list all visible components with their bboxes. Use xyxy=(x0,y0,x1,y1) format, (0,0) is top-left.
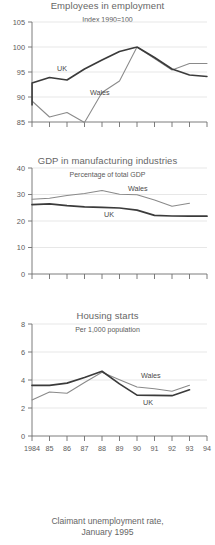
ytick-label-8: 8 xyxy=(21,320,25,329)
xtick-label-94: 94 xyxy=(203,444,211,453)
ytick-label-20: 20 xyxy=(17,217,25,226)
ytick-label-30: 30 xyxy=(17,190,25,199)
figure-panel-stack: Employees in employment Index 1990=100 1… xyxy=(0,0,215,545)
series-label-uk: UK xyxy=(104,210,114,219)
ytick-label-85: 85 xyxy=(17,118,25,127)
series-label-wales: Wales xyxy=(90,88,110,97)
xtick-label-86: 86 xyxy=(63,444,71,453)
ytick-label-10: 10 xyxy=(17,243,25,252)
ytick-label-4: 4 xyxy=(21,376,25,385)
footer-caption-line-2: January 1995 xyxy=(0,527,215,538)
ytick-label-100: 100 xyxy=(13,43,25,52)
ytick-label-2: 2 xyxy=(21,404,25,413)
chart-3-plot: 8 6 4 2 0 1984 85 86 87 88 89 90 91 xyxy=(0,310,215,480)
xtick-label-88: 88 xyxy=(98,444,106,453)
chart-gdp-in-manufacturing-industries: GDP in manufacturing industries Percenta… xyxy=(0,155,215,305)
xtick-label-93: 93 xyxy=(186,444,194,453)
ytick-label-6: 6 xyxy=(21,348,25,357)
series-label-uk: UK xyxy=(57,64,67,73)
series-label-wales: Wales xyxy=(128,184,148,193)
ytick-label-0: 0 xyxy=(21,270,25,279)
series-line-uk xyxy=(32,204,207,216)
ytick-label-105: 105 xyxy=(13,18,25,27)
xtick-label-87: 87 xyxy=(81,444,89,453)
series-label-wales: Wales xyxy=(141,371,161,380)
series-line-uk xyxy=(32,47,207,133)
footer-caption-line-1: Claimant unemployment rate, xyxy=(51,516,163,526)
chart-housing-starts: Housing starts Per 1,000 population 8 6 … xyxy=(0,310,215,480)
ytick-label-95: 95 xyxy=(17,68,25,77)
series-label-uk: UK xyxy=(143,398,153,407)
ytick-label-0: 0 xyxy=(21,432,25,441)
xtick-label-1984: 1984 xyxy=(24,444,40,453)
ytick-label-40: 40 xyxy=(17,164,25,173)
xtick-label-90: 90 xyxy=(133,444,141,453)
xtick-label-91: 91 xyxy=(151,444,159,453)
chart-2-plot: 40 30 20 10 0 Wales UK xyxy=(0,155,215,305)
xtick-label-89: 89 xyxy=(116,444,124,453)
ytick-label-90: 90 xyxy=(17,93,25,102)
series-line-wales xyxy=(32,47,207,123)
chart-1-plot: 105 100 95 90 85 UK Wales xyxy=(0,0,215,150)
footer-caption: Claimant unemployment rate, January 1995 xyxy=(0,516,215,538)
xtick-label-85: 85 xyxy=(46,444,54,453)
xtick-label-92: 92 xyxy=(168,444,176,453)
chart-employees-in-employment: Employees in employment Index 1990=100 1… xyxy=(0,0,215,150)
